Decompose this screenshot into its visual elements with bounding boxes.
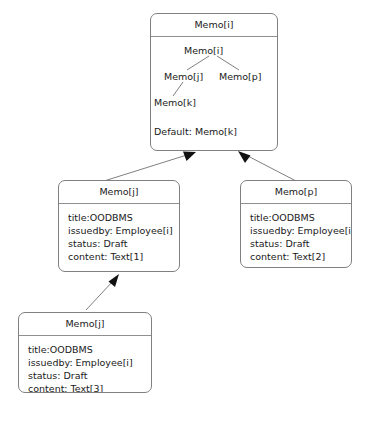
attribute-row: status: Draft bbox=[28, 369, 151, 382]
node-memo-j-1-header: Memo[j] bbox=[59, 181, 179, 204]
node-memo-p-header: Memo[p] bbox=[241, 181, 351, 204]
connector-memo-j1-to-memo-i bbox=[104, 152, 196, 182]
attribute-row: title:OODBMS bbox=[250, 211, 351, 224]
attribute-row: content: Text[2] bbox=[250, 250, 351, 263]
attribute-row: content: Text[3] bbox=[28, 382, 151, 393]
node-memo-j-2-header: Memo[j] bbox=[19, 313, 151, 336]
node-memo-j-1[interactable]: Memo[j] title:OODBMS issuedby: Employee[… bbox=[58, 180, 180, 272]
inner-tree-child-right-label: Memo[p] bbox=[219, 72, 262, 82]
node-memo-p[interactable]: Memo[p] title:OODBMS issuedby: Employee[… bbox=[240, 180, 352, 268]
attribute-row: content: Text[1] bbox=[68, 250, 179, 263]
attribute-row: title:OODBMS bbox=[68, 211, 179, 224]
attribute-row: status: Draft bbox=[68, 237, 179, 250]
inner-tree-root-label: Memo[i] bbox=[184, 46, 223, 56]
node-memo-j-2[interactable]: Memo[j] title:OODBMS issuedby: Employee[… bbox=[18, 312, 152, 393]
attribute-row: title:OODBMS bbox=[28, 343, 151, 356]
uml-object-diagram: Memo[i] --> Memo[i] --> Memo[j](Text[1])… bbox=[0, 0, 389, 423]
inner-tree-child-left-label: Memo[j] bbox=[164, 72, 203, 82]
connector-memo-p-to-memo-i bbox=[238, 151, 296, 181]
node-memo-i[interactable]: Memo[i] Memo[i] Memo[j] Memo[p] Memo[k] … bbox=[150, 13, 278, 151]
attribute-row: issuedby: Employee[i] bbox=[250, 224, 351, 237]
inner-tree-default-label: Default: Memo[k] bbox=[154, 127, 237, 137]
node-memo-j-1-body: title:OODBMS issuedby: Employee[i] statu… bbox=[59, 204, 179, 270]
node-memo-j-2-body: title:OODBMS issuedby: Employee[i] statu… bbox=[19, 336, 151, 394]
node-memo-i-header: Memo[i] bbox=[151, 14, 277, 37]
connector-memo-j2-to-memo-j1 bbox=[86, 274, 119, 310]
node-memo-p-body: title:OODBMS issuedby: Employee[i] statu… bbox=[241, 204, 351, 269]
attribute-row: issuedby: Employee[i] bbox=[68, 224, 179, 237]
inner-tree-grandchild-label: Memo[k] bbox=[154, 98, 196, 108]
attribute-row: status: Draft bbox=[250, 237, 351, 250]
node-memo-i-body: Memo[i] Memo[j] Memo[p] Memo[k] Default:… bbox=[151, 37, 277, 151]
attribute-row: issuedby: Employee[i] bbox=[28, 356, 151, 369]
